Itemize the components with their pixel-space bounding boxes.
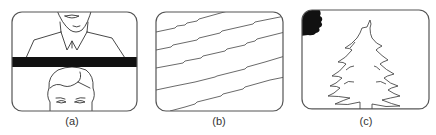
sync-line-2	[156, 16, 285, 50]
hair-line	[50, 72, 81, 88]
panel-a: (a)	[0, 0, 150, 135]
blanking-bar	[12, 57, 137, 67]
panel-c: (c)	[290, 0, 436, 135]
dark-blot	[300, 8, 322, 36]
shoulder-left	[26, 32, 61, 58]
shoulder-right	[87, 32, 125, 58]
caption-a: (a)	[52, 115, 92, 127]
sync-line-5	[170, 77, 285, 111]
mouth-icon	[65, 15, 79, 18]
eye-left	[57, 101, 66, 104]
head-outline	[48, 67, 95, 112]
eye-right	[75, 101, 85, 104]
collar-outline	[61, 32, 87, 50]
panel-b: (b)	[145, 0, 295, 135]
pine-tree-outline	[328, 20, 400, 109]
caption-c: (c)	[346, 115, 386, 127]
sync-line-4	[156, 56, 285, 90]
sync-line-3	[156, 32, 285, 68]
caption-b: (b)	[199, 115, 239, 127]
